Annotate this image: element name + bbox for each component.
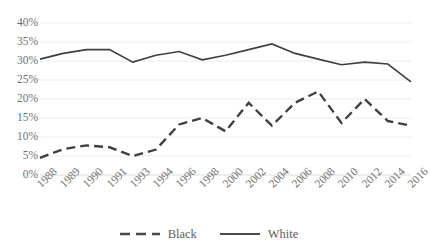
y-axis-tick-label: 35% (6, 36, 38, 48)
legend-item-white[interactable]: White (219, 228, 299, 241)
y-axis-tick-label: 40% (6, 17, 38, 29)
y-axis-tick-label: 25% (6, 74, 38, 86)
legend-swatch-dashed-icon (119, 229, 161, 239)
legend-item-black[interactable]: Black (119, 228, 197, 241)
legend-label: White (268, 228, 299, 241)
y-axis-tick-label: 20% (6, 93, 38, 105)
chart-legend: BlackWhite (0, 222, 417, 246)
legend-swatch-solid-icon (219, 229, 261, 239)
y-axis: 0%5%10%15%20%25%30%35%40% (0, 0, 38, 180)
y-axis-tick-label: 5% (6, 150, 38, 162)
series-line-black (40, 91, 411, 157)
y-axis-tick-label: 15% (6, 112, 38, 124)
y-axis-tick-label: 10% (6, 131, 38, 143)
y-axis-tick-label: 30% (6, 55, 38, 67)
series-line-white (40, 44, 411, 82)
x-axis: 1988198919901991199319941996199820002002… (0, 176, 417, 222)
legend-label: Black (168, 228, 197, 241)
